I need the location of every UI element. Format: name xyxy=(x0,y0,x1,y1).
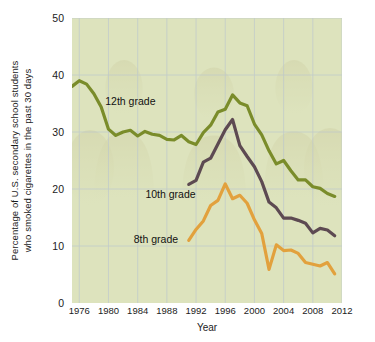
chart-canvas xyxy=(72,18,342,303)
series-label-12th-grade: 12th grade xyxy=(105,95,155,107)
x-tick-1980: 1980 xyxy=(98,305,119,316)
x-tick-1976: 1976 xyxy=(69,305,90,316)
y-tick-10: 10 xyxy=(38,240,68,252)
x-tick-2004: 2004 xyxy=(273,305,294,316)
x-tick-2008: 2008 xyxy=(302,305,323,316)
x-tick-2000: 2000 xyxy=(244,305,265,316)
y-axis-label-line2: who smoked cigarettes in the past 30 day… xyxy=(22,60,35,260)
y-tick-40: 40 xyxy=(38,69,68,81)
y-tick-50: 50 xyxy=(38,12,68,24)
y-axis-tick-labels: 01020304050 xyxy=(38,0,68,342)
series-label-8th-grade: 8th grade xyxy=(134,233,178,245)
y-tick-20: 20 xyxy=(38,183,68,195)
y-axis-label-line1: Percentage of U.S. secondary school stud… xyxy=(10,60,21,260)
x-axis-label: Year xyxy=(72,322,342,333)
x-axis-tick-labels: 1976198019841988199219962000200420082012 xyxy=(0,305,375,321)
y-tick-30: 30 xyxy=(38,126,68,138)
x-tick-1984: 1984 xyxy=(127,305,148,316)
series-label-10th-grade: 10th grade xyxy=(145,188,195,200)
plot-area: 12th grade10th grade8th grade xyxy=(72,18,342,303)
x-tick-1988: 1988 xyxy=(156,305,177,316)
x-tick-1996: 1996 xyxy=(215,305,236,316)
x-tick-2012: 2012 xyxy=(331,305,352,316)
chart-figure: Percentage of U.S. secondary school stud… xyxy=(0,0,375,342)
x-tick-1992: 1992 xyxy=(185,305,206,316)
